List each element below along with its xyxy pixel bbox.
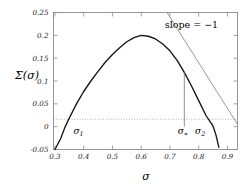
y-tick-label: 0.15 xyxy=(32,54,48,63)
y-tick-label: 0.25 xyxy=(32,8,48,17)
y-tick-label: 0 xyxy=(44,122,49,131)
sigma-function-plot: 0.250.20.150.10.050-0.05 0.30.40.50.60.7… xyxy=(0,0,250,184)
annotation-slope-label: slope = −1 xyxy=(165,19,218,30)
x-axis-label: σ xyxy=(142,170,150,183)
sigma-subscript: 1 xyxy=(80,130,84,137)
x-tick-label: 0.6 xyxy=(135,152,147,161)
x-tick-label: 0.3 xyxy=(49,152,61,161)
sigma-subscript: ∗ xyxy=(184,130,188,137)
x-tick-label: 0.4 xyxy=(78,152,90,161)
y-tick-label: -0.05 xyxy=(30,145,49,154)
y-axis-label: Σ(σ) xyxy=(14,69,39,82)
y-tick-label: 0.05 xyxy=(32,99,48,108)
x-tick-label: 0.5 xyxy=(107,152,119,161)
chart-figure: 0.250.20.150.10.050-0.05 0.30.40.50.60.7… xyxy=(0,0,250,184)
y-tick-label: 0.2 xyxy=(37,31,49,40)
x-tick-label: 0.9 xyxy=(222,152,234,161)
x-tick-label: 0.7 xyxy=(164,152,176,161)
sigma-subscript: 2 xyxy=(200,130,205,137)
x-tick-label: 0.8 xyxy=(193,152,205,161)
